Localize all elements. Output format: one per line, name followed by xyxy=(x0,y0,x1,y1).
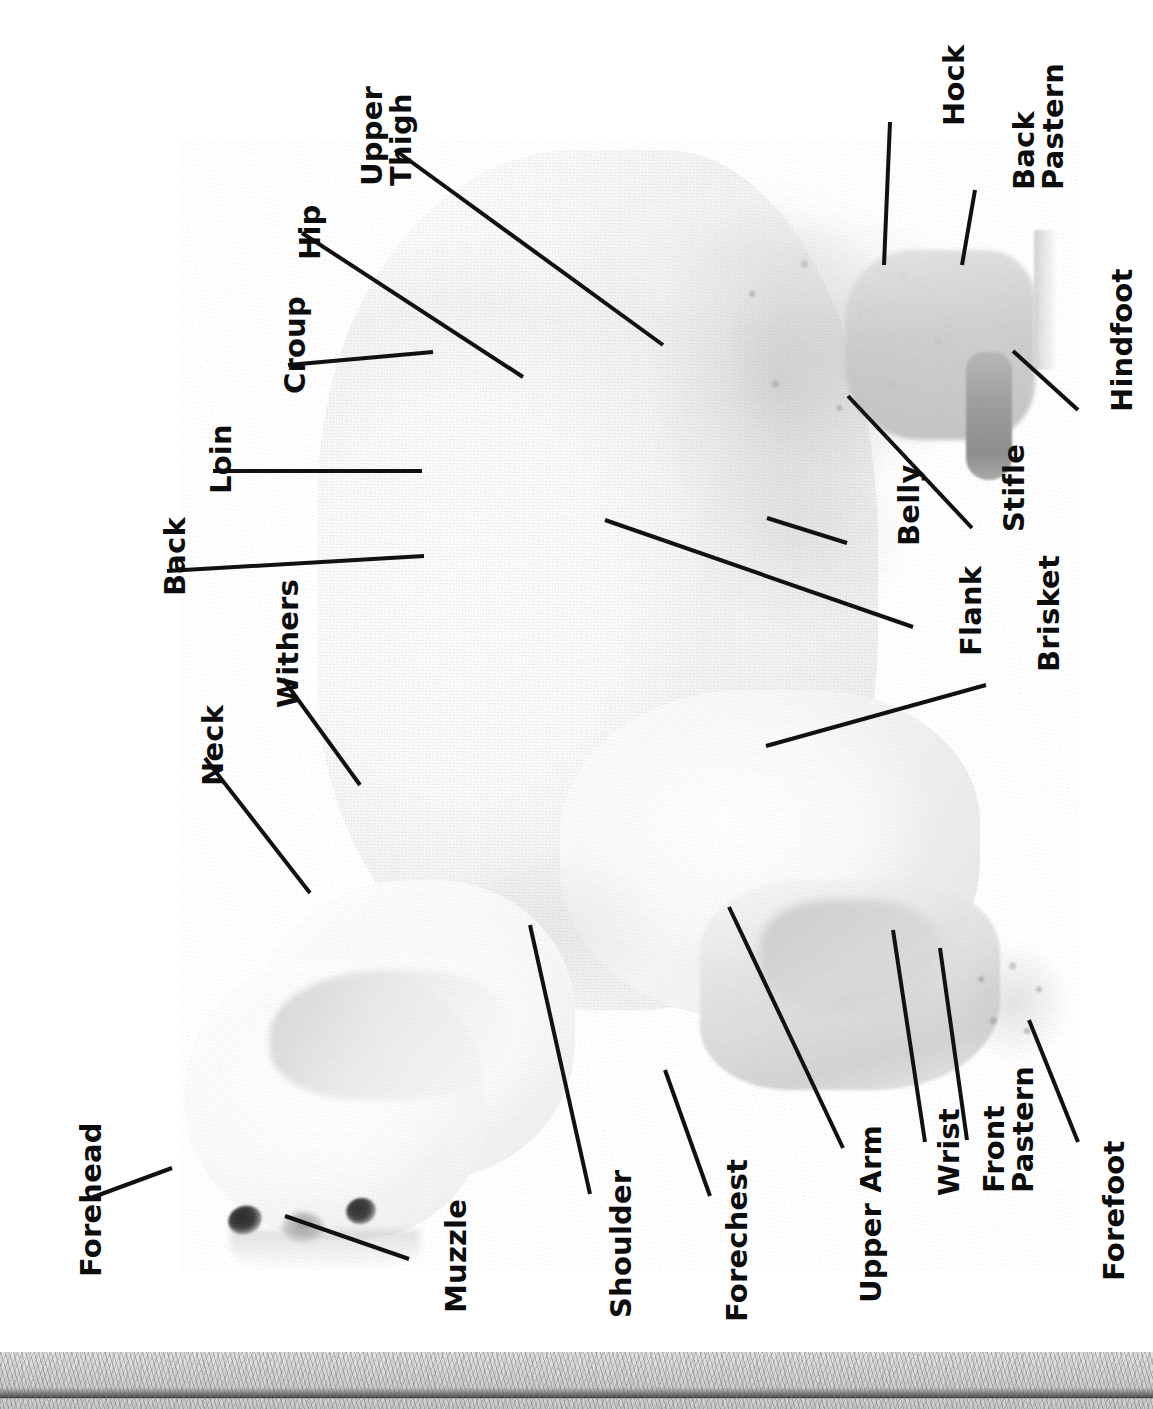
label-front-pastern: Front Pastern xyxy=(980,1066,1038,1193)
leader-line-shoulder xyxy=(530,925,590,1194)
label-belly: Belly xyxy=(895,464,925,546)
leader-line-back xyxy=(167,556,424,571)
leader-line-wrist xyxy=(893,930,925,1142)
label-upper-arm: Upper Arm xyxy=(857,1125,887,1303)
leader-line-forechest xyxy=(665,1070,710,1196)
label-stifle: Stifle xyxy=(1000,444,1030,532)
label-shoulder: Shoulder xyxy=(607,1170,637,1318)
leader-line-hindfoot xyxy=(1013,351,1078,410)
label-withers: Withers xyxy=(274,579,304,708)
anatomy-diagram: Hock Back Pastern Upper Thigh Hip Croup … xyxy=(0,0,1153,1409)
label-back: Back xyxy=(161,517,191,596)
leader-line-back-pastern xyxy=(962,190,975,265)
label-flank: Flank xyxy=(957,566,987,656)
leader-line-flank xyxy=(605,520,913,627)
leader-line-hock xyxy=(884,122,890,265)
label-upper-thigh: Upper Thigh xyxy=(358,86,416,186)
label-forehead: Forehead xyxy=(77,1122,107,1277)
label-hock: Hock xyxy=(940,45,970,126)
label-forechest: Forechest xyxy=(723,1159,753,1322)
label-wrist: Wrist xyxy=(935,1108,965,1196)
label-hindfoot: Hindfoot xyxy=(1108,268,1138,412)
leader-line-muzzle xyxy=(285,1216,409,1259)
label-muzzle: Muzzle xyxy=(442,1199,472,1313)
label-croup: Croup xyxy=(281,296,311,394)
label-forefoot: Forefoot xyxy=(1100,1141,1130,1281)
leader-lines xyxy=(0,0,1153,1409)
leader-line-belly xyxy=(767,518,847,543)
label-back-pastern: Back Pastern xyxy=(1010,63,1068,190)
leader-line-upper-thigh xyxy=(395,150,663,345)
label-neck: Neck xyxy=(199,705,229,786)
label-brisket: Brisket xyxy=(1035,555,1065,672)
leader-line-brisket xyxy=(766,685,986,746)
leader-line-upper-arm xyxy=(729,907,843,1148)
label-loin: Loin xyxy=(207,424,237,494)
label-hip: Hip xyxy=(296,204,326,260)
